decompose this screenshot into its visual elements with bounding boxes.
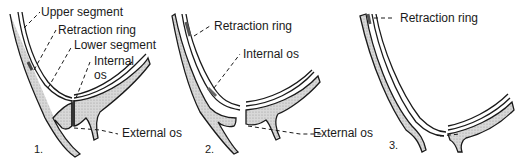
label-retraction-ring-1: Retraction ring <box>58 24 136 37</box>
label-external-os-2: External os <box>313 127 373 140</box>
label-retraction-ring-3: Retraction ring <box>400 12 478 25</box>
panel-number-3: 3. <box>389 139 398 151</box>
label-internal-os-1a: Internal <box>94 55 134 68</box>
label-upper-segment: Upper segment <box>41 6 123 19</box>
label-lower-segment: Lower segment <box>74 39 156 52</box>
label-internal-os-1b: os <box>94 69 107 82</box>
panel-number-2: 2. <box>205 143 214 155</box>
label-retraction-ring-2: Retraction ring <box>214 20 292 33</box>
panel-3-drawing <box>360 14 514 152</box>
label-external-os-1: External os <box>122 127 182 140</box>
labour-stages-diagram: Upper segment Retraction ring Lower segm… <box>0 0 523 159</box>
label-internal-os-2: Internal os <box>243 48 299 61</box>
panel-number-1: 1. <box>34 143 43 155</box>
panel-2-drawing <box>172 14 320 154</box>
